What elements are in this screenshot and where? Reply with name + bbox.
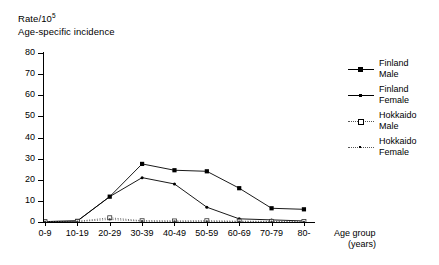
x-axis-title: Age group (years): [334, 228, 376, 250]
legend-label: HokkaidoFemale: [379, 136, 439, 158]
y-axis-tick-label: 10: [11, 195, 35, 205]
y-axis-tick-label: 0: [11, 216, 35, 226]
legend-label-sex: Female: [379, 95, 439, 106]
data-point: [205, 206, 208, 209]
data-point: [302, 207, 306, 211]
y-axis-tick-label: 40: [11, 132, 35, 142]
data-point: [269, 206, 273, 210]
legend-label-region: Hokkaido: [379, 136, 439, 147]
y-axis-tick-label: 50: [11, 110, 35, 120]
data-point: [205, 169, 209, 173]
data-point: [173, 182, 176, 185]
x-axis-tick: [45, 222, 46, 226]
legend-label-region: Finland: [379, 84, 439, 95]
data-point: [109, 218, 111, 220]
y-axis-tick: [38, 53, 43, 54]
legend-marker-icon: [348, 65, 374, 74]
x-axis-tick: [239, 222, 240, 226]
legend-item-hokkaido-male: HokkaidoMale: [348, 112, 436, 138]
x-axis-tick: [174, 222, 175, 226]
legend-label: FinlandMale: [379, 58, 439, 80]
y-axis-tick-label: 80: [11, 47, 35, 57]
plot-area: [44, 53, 312, 222]
chart-title-rate-exponent: 5: [52, 12, 56, 19]
chart-figure: Rate/105 Age-specific incidence 01020304…: [0, 0, 439, 265]
x-axis-tick: [272, 222, 273, 226]
chart-subtitle: Age-specific incidence: [18, 26, 115, 37]
y-axis-tick-label: 30: [11, 153, 35, 163]
x-axis-tick: [142, 222, 143, 226]
y-axis-tick: [38, 201, 43, 202]
legend-label-region: Finland: [379, 58, 439, 69]
x-axis-tick: [207, 222, 208, 226]
y-axis-tick: [38, 222, 43, 223]
x-axis-tick: [77, 222, 78, 226]
legend-item-finland-male: FinlandMale: [348, 60, 436, 86]
y-axis-tick: [38, 159, 43, 160]
series-finland-female: [44, 176, 305, 222]
legend-label: HokkaidoMale: [379, 110, 439, 132]
x-axis-tick: [110, 222, 111, 226]
data-point: [141, 176, 144, 179]
chart-title-rate-text: Rate/10: [18, 13, 52, 24]
y-axis-tick-label: 70: [11, 68, 35, 78]
legend-label-region: Hokkaido: [379, 110, 439, 121]
legend-label: FinlandFemale: [379, 84, 439, 106]
legend-label-sex: Male: [379, 121, 439, 132]
legend-label-sex: Female: [379, 147, 439, 158]
data-point: [172, 168, 176, 172]
y-axis-tick-label: 20: [11, 174, 35, 184]
x-axis-line: [43, 222, 315, 223]
y-axis-tick: [38, 138, 43, 139]
y-axis-tick: [38, 95, 43, 96]
x-axis-tick-label: 80-: [281, 228, 327, 238]
legend-item-finland-female: FinlandFemale: [348, 86, 436, 112]
legend-item-hokkaido-female: HokkaidoFemale: [348, 138, 436, 164]
x-axis-title-line2: (years): [348, 239, 376, 250]
series-finland-male: [44, 162, 306, 222]
legend-label-sex: Male: [379, 69, 439, 80]
legend-marker-icon: [348, 117, 374, 126]
legend-marker-icon: [348, 91, 374, 100]
series-line: [45, 164, 304, 222]
data-point: [108, 195, 111, 198]
chart-legend: FinlandMaleFinlandFemaleHokkaidoMaleHokk…: [348, 60, 436, 164]
y-axis-tick-label: 60: [11, 89, 35, 99]
y-axis-tick: [38, 116, 43, 117]
x-axis-title-line1: Age group: [334, 228, 376, 239]
chart-title-rate: Rate/105: [18, 12, 56, 24]
y-axis-tick: [38, 180, 43, 181]
data-point: [140, 162, 144, 166]
legend-marker-icon: [348, 143, 374, 152]
x-axis-tick: [304, 222, 305, 226]
y-axis-tick: [38, 74, 43, 75]
data-point: [237, 186, 241, 190]
